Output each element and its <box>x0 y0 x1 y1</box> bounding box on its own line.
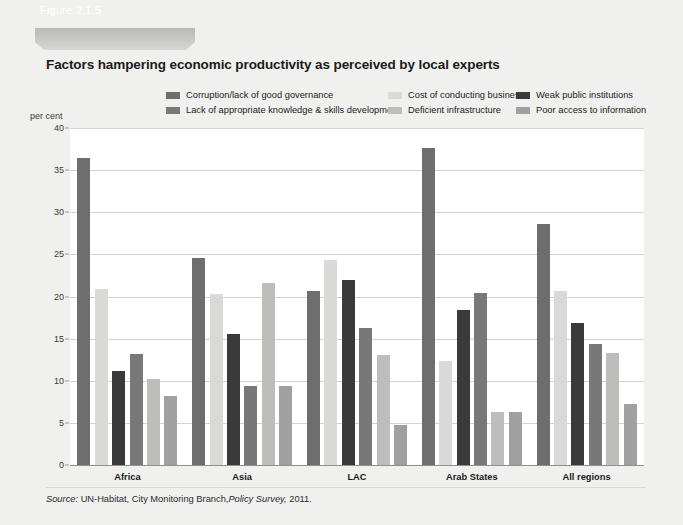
legend-label: Lack of appropriate knowledge & skills d… <box>186 105 400 115</box>
legend-swatch-icon <box>516 92 530 99</box>
y-axis-tick-label: 10 <box>54 376 64 386</box>
legend-label: Cost of conducting business <box>408 90 524 100</box>
bar[interactable] <box>571 323 584 465</box>
source-note: Source: UN-Habitat, City Monitoring Bran… <box>46 494 312 504</box>
bar[interactable] <box>262 283 275 465</box>
bar[interactable] <box>491 412 504 465</box>
y-axis-tick-mark <box>65 254 69 255</box>
bar[interactable] <box>95 289 108 465</box>
bar[interactable] <box>342 280 355 465</box>
y-axis-tick-label: 30 <box>54 207 64 217</box>
source-body: UN-Habitat, City Monitoring Branch, <box>78 494 228 504</box>
bar[interactable] <box>359 328 372 465</box>
y-axis-tick-label: 25 <box>54 249 64 259</box>
bar[interactable] <box>227 334 240 465</box>
bar-group <box>305 128 409 465</box>
legend-item[interactable]: Cost of conducting business <box>388 90 524 100</box>
legend-label: Poor access to information <box>536 105 646 115</box>
bar[interactable] <box>624 404 637 465</box>
bar[interactable] <box>164 396 177 465</box>
y-axis-tick-mark <box>65 212 69 213</box>
bar[interactable] <box>377 355 390 465</box>
y-axis-tick-label: 0 <box>59 460 64 470</box>
bar[interactable] <box>394 425 407 465</box>
x-axis-category-label: Asia <box>182 472 302 482</box>
bar[interactable] <box>244 386 257 465</box>
bar[interactable] <box>112 371 125 465</box>
legend-item[interactable]: Lack of appropriate knowledge & skills d… <box>166 105 400 115</box>
source-year: 2011. <box>287 494 312 504</box>
bar-group <box>534 128 638 465</box>
y-axis-tick-mark <box>65 465 69 466</box>
x-axis-category-label: LAC <box>297 472 417 482</box>
bar[interactable] <box>77 158 90 466</box>
y-axis-tick-mark <box>65 338 69 339</box>
bar[interactable] <box>307 291 320 465</box>
bar[interactable] <box>422 148 435 465</box>
y-axis-tick-label: 20 <box>54 292 64 302</box>
legend-label: Weak public institutions <box>536 90 633 100</box>
bar[interactable] <box>147 379 160 465</box>
chart-legend: Corruption/lack of good governanceLack o… <box>166 90 666 118</box>
legend-swatch-icon <box>166 107 180 114</box>
legend-swatch-icon <box>388 92 402 99</box>
bar[interactable] <box>439 361 452 465</box>
y-axis-tick-mark <box>65 128 69 129</box>
y-axis-tick-label: 35 <box>54 165 64 175</box>
legend-item[interactable]: Poor access to information <box>516 105 646 115</box>
bar[interactable] <box>554 291 567 465</box>
figure-container: Figure 2.1.5 Factors hampering economic … <box>0 0 683 525</box>
source-divider <box>46 487 646 488</box>
figure-tag-label: Figure 2.1.5 <box>40 4 101 16</box>
bar[interactable] <box>474 293 487 465</box>
legend-item[interactable]: Deficient infrastructure <box>388 105 501 115</box>
source-publication: Policy Survey, <box>228 494 286 504</box>
bar[interactable] <box>324 260 337 465</box>
x-axis-line <box>70 465 644 466</box>
source-prefix: Source: <box>46 494 78 504</box>
y-axis-tick-mark <box>65 422 69 423</box>
bar[interactable] <box>210 294 223 465</box>
y-axis-tick-label: 15 <box>54 334 64 344</box>
y-axis-tick-mark <box>65 170 69 171</box>
bar-group <box>75 128 179 465</box>
y-axis-unit-label: per cent <box>30 111 63 121</box>
legend-item[interactable]: Weak public institutions <box>516 90 633 100</box>
y-axis-tick-mark <box>65 296 69 297</box>
bar[interactable] <box>279 386 292 465</box>
legend-label: Corruption/lack of good governance <box>186 90 333 100</box>
y-axis-tick-label: 5 <box>59 418 64 428</box>
bar-group <box>190 128 294 465</box>
bar[interactable] <box>130 354 143 465</box>
legend-swatch-icon <box>388 107 402 114</box>
figure-tag-banner <box>35 28 195 50</box>
figure-title: Factors hampering economic productivity … <box>46 57 500 72</box>
legend-label: Deficient infrastructure <box>408 105 501 115</box>
bar[interactable] <box>537 224 550 465</box>
bar[interactable] <box>192 258 205 465</box>
x-axis-category-label: Arab States <box>412 472 532 482</box>
y-axis-tick-label: 40 <box>54 123 64 133</box>
chart-plot-area: 0510152025303540 <box>70 128 644 466</box>
bar[interactable] <box>457 310 470 465</box>
legend-item[interactable]: Corruption/lack of good governance <box>166 90 333 100</box>
legend-swatch-icon <box>166 92 180 99</box>
x-axis-category-label: All regions <box>527 472 647 482</box>
x-axis-category-label: Africa <box>67 472 187 482</box>
bar-group <box>420 128 524 465</box>
bar[interactable] <box>589 344 602 465</box>
legend-swatch-icon <box>516 107 530 114</box>
bar[interactable] <box>606 353 619 465</box>
bar[interactable] <box>509 412 522 465</box>
y-axis-tick-mark <box>65 380 69 381</box>
